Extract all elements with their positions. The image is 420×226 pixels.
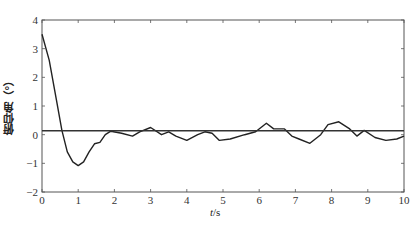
pitch-angle-chart: 012345678910−2−101234 [0,0,420,226]
y-tick-label: 4 [33,14,39,26]
y-tick-label: −2 [26,186,38,198]
tick-marks [42,20,404,192]
y-tick-label: 3 [33,43,39,55]
y-axis-label: 俯仰角（°） [2,60,20,150]
x-tick-label: 2 [112,194,118,206]
x-tick-label: 4 [184,194,190,206]
x-axis-unit: /s [213,206,220,218]
x-tick-label: 8 [329,194,335,206]
x-tick-label: 5 [220,194,226,206]
x-tick-label: 9 [365,194,371,206]
y-tick-label: −1 [26,157,38,169]
x-axis-label: t/s [210,206,220,218]
y-tick-label: 2 [33,71,39,83]
x-tick-label: 0 [39,194,45,206]
plot-frame [42,20,404,192]
x-tick-label: 6 [256,194,262,206]
x-tick-label: 1 [75,194,81,206]
axes [42,20,404,192]
tick-labels: 012345678910−2−101234 [26,14,410,206]
x-tick-label: 3 [148,194,154,206]
data-series [42,34,404,165]
x-tick-label: 7 [293,194,299,206]
y-tick-label: 1 [33,100,39,112]
x-tick-label: 10 [399,194,411,206]
y-tick-label: 0 [33,129,39,141]
pitch-angle-curve [42,34,404,165]
